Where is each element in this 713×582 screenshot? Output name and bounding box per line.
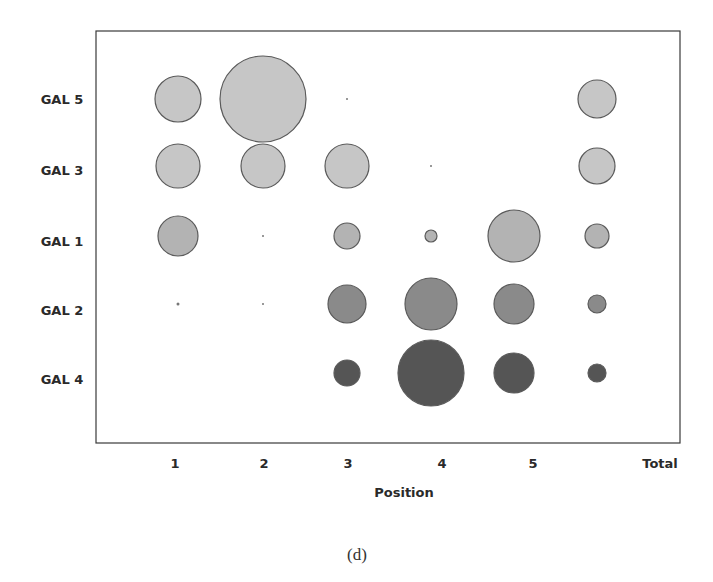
- x-tick-total: Total: [642, 456, 678, 471]
- bubble-gal2-4: [405, 278, 457, 330]
- bubble-gal5-2: [220, 56, 306, 142]
- bubble-gal1-5: [488, 210, 540, 262]
- x-axis-labels: 12345Total: [170, 456, 677, 471]
- bubble-gal2-2: [262, 303, 264, 305]
- bubble-gal3-2: [241, 144, 285, 188]
- bubble-gal3-1: [156, 144, 200, 188]
- bubble-gal2-3: [328, 285, 366, 323]
- bubble-gal1-4: [425, 230, 437, 242]
- bubble-chart: GAL 5GAL 3GAL 1GAL 2GAL 4 12345Total Pos…: [0, 0, 713, 582]
- bubble-gal2-5: [494, 284, 534, 324]
- y-label-gal4: GAL 4: [41, 372, 84, 387]
- x-tick-4: 4: [437, 456, 446, 471]
- bubble-gal3-total: [579, 148, 615, 184]
- bubble-gal3-4: [430, 165, 432, 167]
- bubble-gal2-1: [177, 303, 180, 306]
- x-tick-3: 3: [343, 456, 352, 471]
- bubble-gal4-total: [588, 364, 606, 382]
- x-tick-1: 1: [170, 456, 179, 471]
- bubble-gal3-3: [325, 144, 369, 188]
- bubble-gal4-4: [398, 340, 464, 406]
- bubble-gal5-1: [155, 76, 201, 122]
- y-axis-labels: GAL 5GAL 3GAL 1GAL 2GAL 4: [41, 92, 84, 387]
- bubble-gal1-1: [158, 216, 198, 256]
- figure-caption: (d): [347, 545, 367, 564]
- bubble-gal2-total: [588, 295, 606, 313]
- bubble-gal5-total: [578, 80, 616, 118]
- x-tick-2: 2: [259, 456, 268, 471]
- x-tick-5: 5: [528, 456, 537, 471]
- y-label-gal5: GAL 5: [41, 92, 84, 107]
- bubble-gal1-2: [262, 235, 264, 237]
- bubble-gal1-3: [334, 223, 360, 249]
- y-label-gal2: GAL 2: [41, 303, 84, 318]
- bubble-gal5-3: [346, 98, 348, 100]
- y-label-gal3: GAL 3: [41, 163, 84, 178]
- bubble-gal4-3: [334, 360, 360, 386]
- x-axis-title: Position: [374, 485, 434, 500]
- y-label-gal1: GAL 1: [41, 234, 84, 249]
- bubble-gal1-total: [585, 224, 609, 248]
- bubble-gal4-5: [494, 353, 534, 393]
